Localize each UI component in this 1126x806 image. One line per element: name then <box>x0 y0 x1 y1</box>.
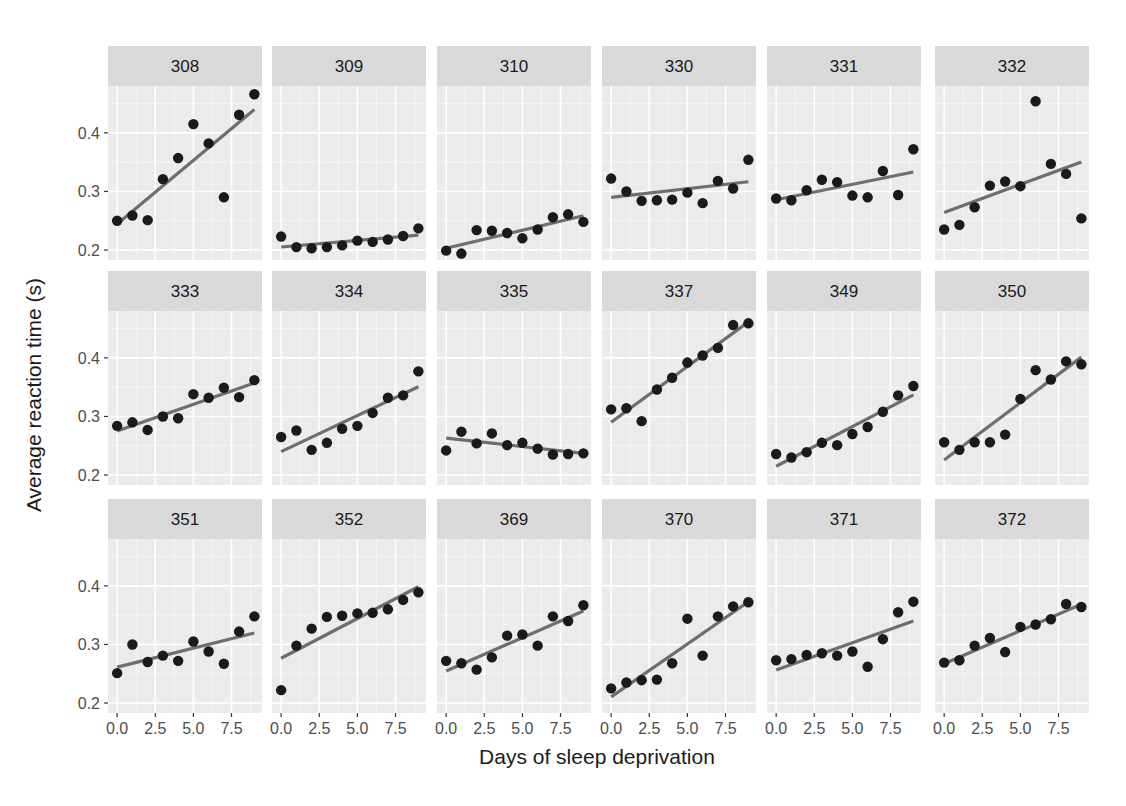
data-point <box>847 646 857 656</box>
data-point <box>188 636 198 646</box>
y-tick-label: 0.4 <box>78 125 100 142</box>
data-point <box>112 668 122 678</box>
data-point <box>337 424 347 434</box>
x-tick-label: 0.0 <box>270 720 292 737</box>
data-point <box>606 683 616 693</box>
data-point <box>652 384 662 394</box>
facet-panel-334: 334 <box>272 271 426 485</box>
data-point <box>203 646 213 656</box>
data-point <box>471 438 481 448</box>
data-point <box>985 633 995 643</box>
facet-panel-333: 3330.20.30.4 <box>78 271 262 485</box>
data-point <box>771 655 781 665</box>
facet-strip-label: 310 <box>500 57 528 76</box>
data-point <box>502 228 512 238</box>
data-point <box>939 224 949 234</box>
data-point <box>413 587 423 597</box>
data-point <box>786 452 796 462</box>
data-point <box>801 185 811 195</box>
data-point <box>203 138 213 148</box>
facet-panel-309: 309 <box>272 46 426 260</box>
y-tick-label: 0.3 <box>78 636 100 653</box>
x-tick-label: 7.5 <box>1047 720 1069 737</box>
x-tick-label: 5.0 <box>346 720 368 737</box>
data-point <box>322 438 332 448</box>
data-point <box>352 235 362 245</box>
facet-strip-label: 370 <box>665 510 693 529</box>
data-point <box>173 153 183 163</box>
data-point <box>127 210 137 220</box>
data-point <box>1076 213 1086 223</box>
data-point <box>383 604 393 614</box>
data-point <box>1030 365 1040 375</box>
data-point <box>322 242 332 252</box>
data-point <box>939 657 949 667</box>
data-point <box>532 443 542 453</box>
data-point <box>908 596 918 606</box>
data-point <box>306 445 316 455</box>
data-point <box>621 403 631 413</box>
x-tick-label: 2.5 <box>638 720 660 737</box>
data-point <box>517 438 527 448</box>
data-point <box>801 650 811 660</box>
facet-strip-label: 309 <box>335 57 363 76</box>
data-point <box>771 449 781 459</box>
data-point <box>548 611 558 621</box>
data-point <box>441 445 451 455</box>
x-tick-label: 7.5 <box>220 720 242 737</box>
data-point <box>441 656 451 666</box>
data-point <box>487 652 497 662</box>
data-point <box>532 640 542 650</box>
data-point <box>249 89 259 99</box>
data-point <box>234 392 244 402</box>
data-point <box>219 192 229 202</box>
data-point <box>713 611 723 621</box>
data-point <box>249 375 259 385</box>
x-tick-label: 5.0 <box>511 720 533 737</box>
data-point <box>985 437 995 447</box>
data-point <box>621 186 631 196</box>
data-point <box>713 343 723 353</box>
data-point <box>728 320 738 330</box>
data-point <box>173 656 183 666</box>
data-point <box>713 176 723 186</box>
x-tick-label: 5.0 <box>676 720 698 737</box>
data-point <box>1061 356 1071 366</box>
data-point <box>306 623 316 633</box>
facet-strip-label: 337 <box>665 282 693 301</box>
x-tick-label: 0.0 <box>765 720 787 737</box>
data-point <box>817 438 827 448</box>
data-point <box>697 350 707 360</box>
facet-panel-352: 3520.02.55.07.5 <box>270 499 426 737</box>
data-point <box>456 426 466 436</box>
data-point <box>771 193 781 203</box>
data-point <box>1015 622 1025 632</box>
data-point <box>158 174 168 184</box>
x-tick-label: 5.0 <box>1009 720 1031 737</box>
x-tick-label: 7.5 <box>714 720 736 737</box>
data-point <box>367 608 377 618</box>
data-point <box>578 448 588 458</box>
facet-strip-label: 369 <box>500 510 528 529</box>
data-point <box>1015 181 1025 191</box>
data-point <box>847 190 857 200</box>
data-point <box>578 217 588 227</box>
data-point <box>158 650 168 660</box>
facet-panel-335: 335 <box>437 271 591 485</box>
data-point <box>878 407 888 417</box>
facet-strip-label: 332 <box>998 57 1026 76</box>
data-point <box>743 318 753 328</box>
facet-panel-351: 3510.20.30.40.02.55.07.5 <box>78 499 262 737</box>
data-point <box>367 408 377 418</box>
data-point <box>832 440 842 450</box>
data-point <box>954 655 964 665</box>
data-point <box>1046 614 1056 624</box>
x-tick-label: 7.5 <box>384 720 406 737</box>
data-point <box>112 421 122 431</box>
data-point <box>697 650 707 660</box>
data-point <box>456 658 466 668</box>
x-tick-label: 0.0 <box>600 720 622 737</box>
data-point <box>234 626 244 636</box>
facet-panel-349: 349 <box>767 271 921 485</box>
data-point <box>291 425 301 435</box>
